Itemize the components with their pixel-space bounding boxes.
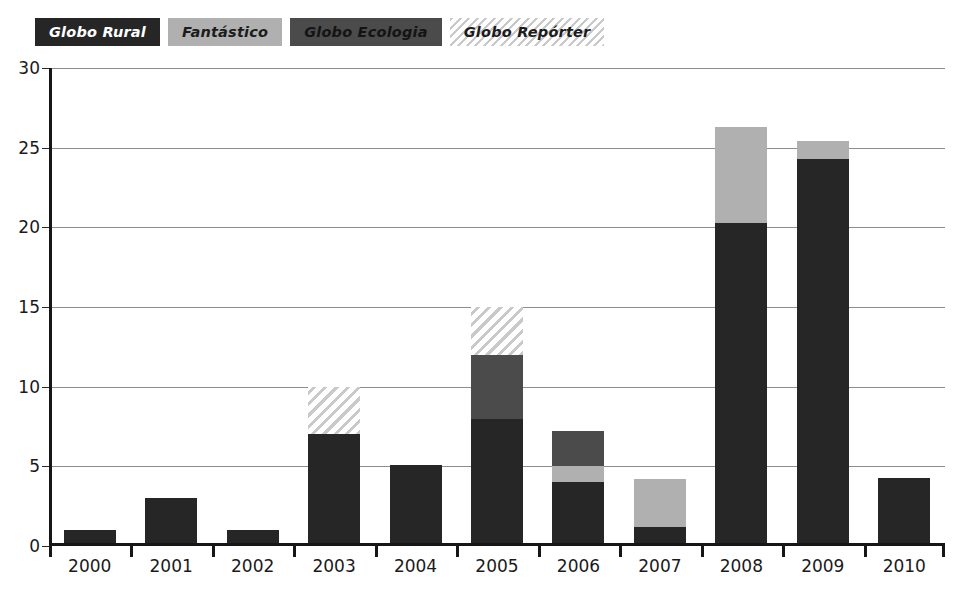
chart-legend: Globo RuralFantásticoGlobo EcologiaGlobo… xyxy=(35,18,604,46)
x-axis-label-2005: 2005 xyxy=(456,556,537,576)
y-tick-mark-25 xyxy=(42,148,49,149)
x-axis-label-2001: 2001 xyxy=(130,556,211,576)
x-axis-label-2002: 2002 xyxy=(212,556,293,576)
y-tick-mark-0 xyxy=(42,546,49,547)
x-axis-label-2007: 2007 xyxy=(619,556,700,576)
y-tick-label-15: 15 xyxy=(18,297,40,317)
x-axis-label-2004: 2004 xyxy=(375,556,456,576)
y-tick-label-5: 5 xyxy=(29,456,40,476)
x-axis-label-2010: 2010 xyxy=(864,556,945,576)
legend-item-reporter: Globo Repórter xyxy=(450,18,605,46)
legend-item-rural: Globo Rural xyxy=(35,18,160,46)
y-tick-label-25: 25 xyxy=(18,138,40,158)
x-axis-label-2006: 2006 xyxy=(538,556,619,576)
x-axis-label-2000: 2000 xyxy=(49,556,130,576)
y-tick-mark-30 xyxy=(42,68,49,69)
x-axis-label-2008: 2008 xyxy=(701,556,782,576)
y-tick-label-0: 0 xyxy=(29,536,40,556)
y-tick-mark-15 xyxy=(42,307,49,308)
legend-item-fantastico: Fantástico xyxy=(168,18,282,46)
y-tick-label-10: 10 xyxy=(18,377,40,397)
axis-frame xyxy=(49,68,945,546)
y-tick-label-30: 30 xyxy=(18,58,40,78)
y-tick-mark-10 xyxy=(42,387,49,388)
x-axis-labels: 2000200120022003200420052006200720082009… xyxy=(49,556,945,576)
x-axis-label-2003: 2003 xyxy=(293,556,374,576)
legend-item-ecologia: Globo Ecologia xyxy=(290,18,442,46)
y-tick-mark-20 xyxy=(42,227,49,228)
y-tick-label-20: 20 xyxy=(18,217,40,237)
plot-area: 051015202530 xyxy=(49,68,945,546)
x-axis-label-2009: 2009 xyxy=(782,556,863,576)
y-tick-mark-5 xyxy=(42,466,49,467)
